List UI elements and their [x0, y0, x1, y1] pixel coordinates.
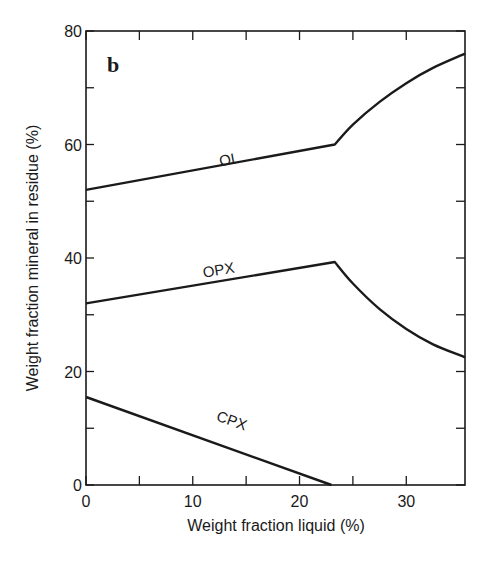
chart: 0102030020406080 OLOPXCPX b Weight fract…: [0, 0, 495, 571]
series-line-ol: [86, 54, 465, 190]
y-tick-label: 60: [64, 137, 82, 154]
x-tick-label: 20: [291, 493, 309, 510]
x-tick-label: 10: [184, 493, 202, 510]
y-tick-label: 80: [64, 23, 82, 40]
tick-labels: 0102030020406080: [64, 23, 415, 510]
series-labels: OLOPXCPX: [202, 149, 250, 434]
y-axis-title: Weight fraction mineral in residue (%): [24, 125, 41, 391]
series-line-cpx: [86, 397, 332, 485]
x-tick-label: 0: [82, 493, 91, 510]
x-tick-label: 30: [397, 493, 415, 510]
y-tick-label: 0: [73, 477, 82, 494]
series-label-opx: OPX: [202, 259, 236, 281]
x-axis-title: Weight fraction liquid (%): [187, 517, 365, 534]
series-lines: [86, 54, 465, 485]
series-label-ol: OL: [218, 149, 241, 169]
series-label-cpx: CPX: [215, 407, 250, 433]
y-tick-label: 40: [64, 250, 82, 267]
series-line-opx: [86, 262, 465, 357]
panel-label: b: [107, 52, 119, 77]
y-tick-label: 20: [64, 364, 82, 381]
